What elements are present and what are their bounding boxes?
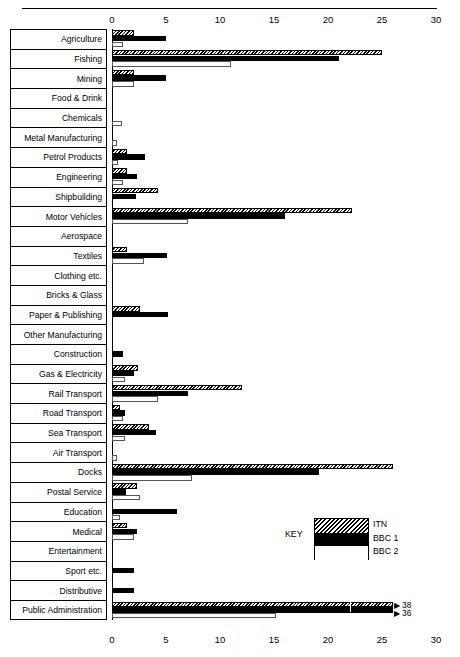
bar-bbc2 <box>112 219 188 224</box>
bar-itn <box>112 483 137 488</box>
legend-swatch-bbc1 <box>315 533 368 547</box>
x-tick-label: 20 <box>315 14 341 25</box>
category-label: Distributive <box>10 580 107 600</box>
legend-swatch-bbc2 <box>315 546 368 560</box>
bar-group-row <box>112 246 436 266</box>
category-label: Food & Drink <box>10 88 107 108</box>
bar-itn <box>112 149 127 154</box>
bar-bbc2 <box>112 613 276 618</box>
x-tick-label: 5 <box>153 634 179 645</box>
bar-itn <box>112 70 134 75</box>
bar-itn <box>112 168 127 173</box>
x-tick-label: 0 <box>99 14 125 25</box>
bar-bbc1 <box>112 213 285 218</box>
bar-group-row <box>112 344 436 364</box>
category-label: Agriculture <box>10 29 107 49</box>
bar-group-row <box>112 285 436 305</box>
legend-swatches <box>314 518 369 560</box>
bar-bbc1 <box>112 351 123 356</box>
bar-group-row <box>112 482 436 502</box>
bar-bbc2 <box>112 495 140 500</box>
bar-itn <box>112 188 158 193</box>
bar-group-row <box>112 364 436 384</box>
x-tick-label: 25 <box>369 634 395 645</box>
bar-bbc1 <box>112 430 156 435</box>
bar-bbc2 <box>112 121 122 126</box>
bar-bbc2 <box>112 42 123 47</box>
bar-bbc2 <box>112 377 125 382</box>
legend-swatch-itn <box>315 519 368 533</box>
x-tick-label: 15 <box>261 634 287 645</box>
bar-group-row <box>112 226 436 246</box>
category-label: Motor Vehicles <box>10 206 107 226</box>
axis-break-mark <box>350 601 352 612</box>
bar-bbc1 <box>112 489 126 494</box>
bar-itn <box>112 50 382 55</box>
bar-bbc2 <box>112 258 144 263</box>
legend-label-bbc2: BBC 2 <box>373 546 398 556</box>
bar-group-row <box>112 108 436 128</box>
bar-itn <box>112 464 393 469</box>
category-label: Docks <box>10 462 107 482</box>
bar-group-row <box>112 68 436 88</box>
bar-bbc1 <box>112 154 145 159</box>
category-label: Engineering <box>10 167 107 187</box>
bar-bbc1 <box>112 568 134 573</box>
x-tick-label: 30 <box>423 634 449 645</box>
bar-group-row <box>112 561 436 581</box>
bar-bbc1 <box>112 253 167 258</box>
category-label: Rail Transport <box>10 383 107 403</box>
x-tick-label: 10 <box>207 14 233 25</box>
bar-bbc1 <box>112 410 125 415</box>
category-label: Bricks & Glass <box>10 285 107 305</box>
category-label-column: AgricultureFishingMiningFood & DrinkChem… <box>10 29 107 620</box>
x-tick-label: 20 <box>315 634 341 645</box>
bar-bbc2 <box>112 515 120 520</box>
bar-group-row <box>112 29 436 49</box>
category-label: Sport etc. <box>10 561 107 581</box>
bar-itn <box>112 385 242 390</box>
bar-itn <box>112 523 127 528</box>
legend-labels: ITN BBC 1 BBC 2 <box>373 516 425 562</box>
bar-itn <box>112 30 134 35</box>
bar-bbc2 <box>112 140 117 145</box>
category-label: Aerospace <box>10 226 107 246</box>
bar-itn <box>112 306 140 311</box>
legend: KEY ITN BBC 1 BBC 2 <box>285 516 425 562</box>
bar-group-row <box>112 128 436 148</box>
bar-bbc2 <box>112 475 192 480</box>
bar-bbc2 <box>112 180 123 185</box>
bar-group-row <box>112 325 436 345</box>
bar-group-row <box>112 206 436 226</box>
bar-bbc2 <box>112 455 117 460</box>
bar-group-row: ▶ 38▶ 36 <box>112 600 436 620</box>
x-tick-label: 30 <box>423 14 449 25</box>
category-label: Shipbuilding <box>10 187 107 207</box>
category-label: Textiles <box>10 246 107 266</box>
category-label: Public Administration <box>10 600 107 620</box>
bar-bbc1 <box>112 588 134 593</box>
x-axis-top: 051015202530 <box>0 14 460 28</box>
bar-bbc1 <box>112 174 137 179</box>
x-tick-label: 10 <box>207 634 233 645</box>
bar-group-row <box>112 305 436 325</box>
top-divider-rule <box>22 8 437 9</box>
bar-bbc2 <box>112 81 134 86</box>
bar-group-row <box>112 88 436 108</box>
bar-itn <box>112 208 352 213</box>
bar-bbc1 <box>112 312 168 317</box>
category-label: Postal Service <box>10 482 107 502</box>
bar-itn <box>112 424 149 429</box>
category-label: Mining <box>10 68 107 88</box>
bar-bbc1 <box>112 469 319 474</box>
legend-label-itn: ITN <box>373 519 387 529</box>
bar-group-row <box>112 384 436 404</box>
category-label: Medical <box>10 521 107 541</box>
category-label: Entertainment <box>10 541 107 561</box>
bar-bbc2 <box>112 534 134 539</box>
bar-bbc1 <box>112 194 136 199</box>
category-label: Petrol Products <box>10 147 107 167</box>
category-label: Sea Transport <box>10 423 107 443</box>
category-label: Air Transport <box>10 442 107 462</box>
bar-chart: 051015202530 AgricultureFishingMiningFoo… <box>0 0 460 657</box>
